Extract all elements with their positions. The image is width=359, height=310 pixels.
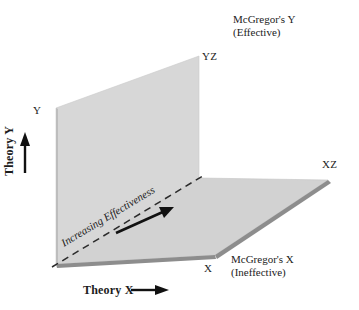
axis-label-theory-x: Theory X [83,283,134,297]
vertex-label-x: X [204,262,212,275]
vertex-label-y: Y [33,104,41,117]
diagram-root: Increasing Effectiveness Y YZ XZ X McGre… [0,0,359,310]
callout-mcgregor-x-line1: McGregor's X [231,253,294,265]
callout-mcgregor-x-line2: (Ineffective) [231,266,294,279]
axis-label-theory-y: Theory Y [2,126,16,176]
theory-y-axis-arrow-icon [20,132,30,173]
callout-mcgregor-y-line1: McGregor's Y [233,13,295,25]
diagram-canvas: Increasing Effectiveness [0,0,359,310]
callout-mcgregor-x: McGregor's X (Ineffective) [231,253,294,279]
wall-shadow-left-edge [56,108,58,265]
vertex-label-xz: XZ [322,158,337,171]
callout-mcgregor-y: McGregor's Y (Effective) [233,13,295,39]
vertex-label-yz: YZ [202,50,217,63]
theory-x-axis-arrow-icon [131,285,169,295]
callout-mcgregor-y-line2: (Effective) [233,26,295,39]
